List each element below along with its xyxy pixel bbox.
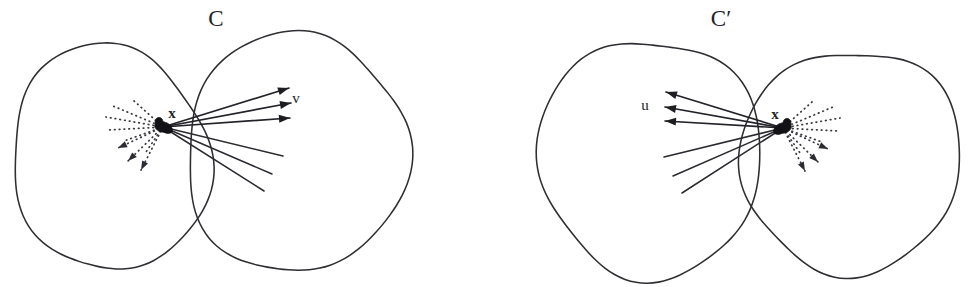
- panel-c-vertex-point-lower: [164, 127, 173, 134]
- panel-c-prime-vector-arrowhead: [665, 118, 676, 126]
- labels-group: CxvC′xu: [168, 6, 779, 122]
- panel-c-prime-dotted-arrowhead: [798, 162, 805, 172]
- panel-c-prime-right-blob: [738, 55, 959, 278]
- panel-c-prime-vector-arrowhead: [665, 105, 677, 113]
- panel-c-prime-point-label: x: [771, 106, 779, 122]
- panels-group: [15, 31, 959, 284]
- panel-c-vector-ray: [163, 118, 290, 127]
- panel-c-vertex-point-upper: [155, 117, 163, 126]
- panel-c-prime-vertex-point-upper: [783, 118, 791, 127]
- panel-c-prime-plain-ray: [682, 128, 783, 193]
- panel-c-point-label: x: [168, 105, 176, 121]
- panel-c-prime-dotted-arrowhead: [818, 142, 828, 149]
- panel-c-left-blob: [15, 43, 214, 269]
- panel-c-right-blob: [190, 31, 412, 271]
- panel-c-prime-vector-label: u: [641, 97, 649, 113]
- panel-c-prime-vertex-point-lower: [774, 128, 783, 135]
- panel-c-dotted-arrowhead: [118, 141, 128, 148]
- panel-c-prime-plain-ray: [664, 128, 783, 157]
- panel-panel-c-prime: [536, 44, 959, 284]
- panel-c-prime-set-label: C′: [711, 6, 731, 31]
- two-blob-vector-diagram: CxvC′xu: [0, 0, 974, 287]
- panel-c-vector-arrowhead: [280, 101, 292, 109]
- panel-c-prime-left-blob: [536, 44, 760, 284]
- panel-c-dotted-arrowhead: [141, 161, 148, 171]
- panel-c-vector-arrowhead: [277, 87, 289, 95]
- panel-panel-c: [15, 31, 413, 271]
- panel-c-vector-label: v: [292, 90, 300, 106]
- panel-c-prime-vector-arrowhead: [666, 91, 678, 99]
- panel-c-set-label: C: [208, 6, 223, 31]
- figure-root: CxvC′xu: [0, 0, 974, 287]
- panel-c-plain-ray: [163, 127, 272, 174]
- panel-c-plain-ray: [163, 127, 283, 156]
- panel-c-prime-plain-ray: [673, 128, 783, 176]
